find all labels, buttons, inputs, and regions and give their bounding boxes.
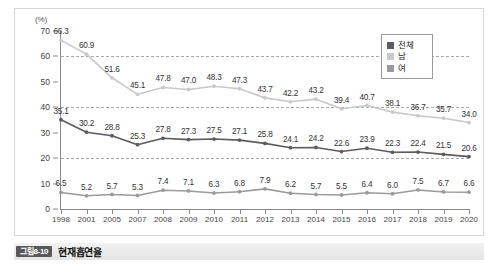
data-point-value: 5.5 bbox=[336, 182, 347, 191]
y-axis-tick-label: 20 bbox=[41, 153, 50, 163]
data-point bbox=[467, 190, 471, 194]
data-point-value: 5.7 bbox=[107, 182, 118, 191]
data-point bbox=[467, 155, 471, 159]
data-point bbox=[365, 104, 369, 108]
legend-item-여[interactable]: 여 bbox=[387, 63, 427, 74]
x-axis-tick bbox=[61, 209, 62, 214]
data-point bbox=[263, 141, 267, 145]
legend-swatch-icon bbox=[387, 53, 394, 60]
x-axis-tick-label: 2009 bbox=[180, 215, 198, 224]
data-point bbox=[85, 194, 89, 198]
data-point-value: 60.9 bbox=[79, 41, 94, 50]
x-axis-tick-label: 2011 bbox=[231, 215, 248, 224]
x-axis-tick bbox=[163, 209, 164, 214]
legend-item-남[interactable]: 남 bbox=[387, 51, 427, 62]
x-axis-tick bbox=[138, 209, 139, 214]
figure-title: 현재흡연율 bbox=[58, 244, 102, 259]
data-point-value: 35.7 bbox=[436, 105, 451, 114]
x-axis-tick-label: 2013 bbox=[282, 215, 300, 224]
x-axis-labels: 1998200120052007200820092010201120122013… bbox=[61, 215, 469, 229]
legend-label: 전체 bbox=[398, 41, 414, 50]
data-point bbox=[85, 130, 89, 134]
data-point bbox=[110, 193, 114, 197]
data-point bbox=[110, 76, 114, 80]
data-point bbox=[263, 96, 267, 100]
data-point-value: 23.9 bbox=[359, 135, 374, 144]
y-axis-tick bbox=[53, 158, 58, 159]
data-point bbox=[467, 121, 471, 125]
data-point bbox=[238, 138, 242, 142]
x-axis-tick-label: 2020 bbox=[460, 215, 478, 224]
data-point-value: 39.4 bbox=[334, 96, 349, 105]
data-point-value: 40.7 bbox=[359, 93, 374, 102]
data-point bbox=[136, 92, 140, 96]
data-point bbox=[187, 189, 191, 193]
x-axis-tick-label: 2001 bbox=[78, 215, 96, 224]
y-axis-tick-label: 60 bbox=[41, 51, 50, 61]
data-point-value: 38.1 bbox=[385, 99, 400, 108]
y-axis-tick bbox=[53, 56, 58, 57]
data-point bbox=[442, 116, 446, 120]
x-axis-tick bbox=[214, 209, 215, 214]
y-axis-tick-label: 10 bbox=[41, 179, 50, 189]
data-point bbox=[59, 39, 63, 43]
data-point bbox=[314, 193, 318, 197]
data-point bbox=[365, 191, 369, 195]
x-axis-tick bbox=[444, 209, 445, 214]
y-axis-tick-label: 0 bbox=[45, 204, 50, 214]
data-point-value: 42.2 bbox=[283, 89, 298, 98]
data-point bbox=[59, 118, 63, 122]
data-point-value: 22.4 bbox=[410, 139, 425, 148]
data-point bbox=[161, 86, 165, 90]
data-point bbox=[442, 152, 446, 156]
x-axis-tick-label: 2019 bbox=[435, 215, 453, 224]
y-axis-tick bbox=[53, 81, 58, 82]
x-axis-tick bbox=[291, 209, 292, 214]
data-point bbox=[289, 100, 293, 104]
y-axis-tick bbox=[53, 132, 58, 133]
legend-label: 남 bbox=[398, 52, 406, 61]
x-axis-tick bbox=[240, 209, 241, 214]
legend-item-전체[interactable]: 전체 bbox=[387, 40, 427, 51]
data-point bbox=[136, 194, 140, 198]
x-axis-tick-label: 2017 bbox=[384, 215, 402, 224]
figure-container: (%) 010203040506070 66.360.951.645.147.8… bbox=[0, 0, 499, 270]
chart-card: (%) 010203040506070 66.360.951.645.147.8… bbox=[14, 8, 484, 236]
data-point-value: 48.3 bbox=[206, 73, 221, 82]
data-point-value: 22.6 bbox=[334, 139, 349, 148]
legend-swatch-icon bbox=[387, 65, 394, 72]
data-point-value: 6.6 bbox=[464, 179, 475, 188]
data-point-value: 25.8 bbox=[257, 130, 272, 139]
data-point bbox=[212, 191, 216, 195]
data-point bbox=[391, 192, 395, 196]
data-point-value: 6.4 bbox=[362, 180, 373, 189]
data-point bbox=[110, 134, 114, 138]
legend-swatch-icon bbox=[387, 42, 394, 49]
data-point bbox=[212, 84, 216, 88]
data-point-value: 43.2 bbox=[308, 86, 323, 95]
data-point-value: 5.2 bbox=[81, 183, 92, 192]
data-point bbox=[314, 97, 318, 101]
data-point bbox=[416, 150, 420, 154]
data-point-value: 6.5 bbox=[56, 179, 67, 188]
data-point bbox=[289, 146, 293, 150]
data-point bbox=[187, 88, 191, 92]
data-point-value: 20.6 bbox=[461, 144, 476, 153]
y-axis-tick-label: 50 bbox=[41, 77, 50, 87]
x-axis-tick bbox=[265, 209, 266, 214]
x-axis-tick-label: 2007 bbox=[129, 215, 147, 224]
legend-label: 여 bbox=[398, 64, 406, 73]
data-point bbox=[365, 146, 369, 150]
data-point-value: 24.2 bbox=[308, 134, 323, 143]
data-point-value: 7.9 bbox=[260, 176, 271, 185]
data-point-value: 7.5 bbox=[413, 177, 424, 186]
data-point-value: 6.2 bbox=[285, 180, 296, 189]
x-axis-tick-label: 2018 bbox=[409, 215, 427, 224]
y-axis-unit-label: (%) bbox=[35, 15, 47, 24]
x-axis-tick-label: 1998 bbox=[52, 215, 70, 224]
data-point bbox=[187, 138, 191, 142]
data-point bbox=[238, 190, 242, 194]
data-point bbox=[263, 187, 267, 191]
data-point-value: 25.3 bbox=[130, 132, 145, 141]
x-axis-tick-label: 2008 bbox=[154, 215, 172, 224]
